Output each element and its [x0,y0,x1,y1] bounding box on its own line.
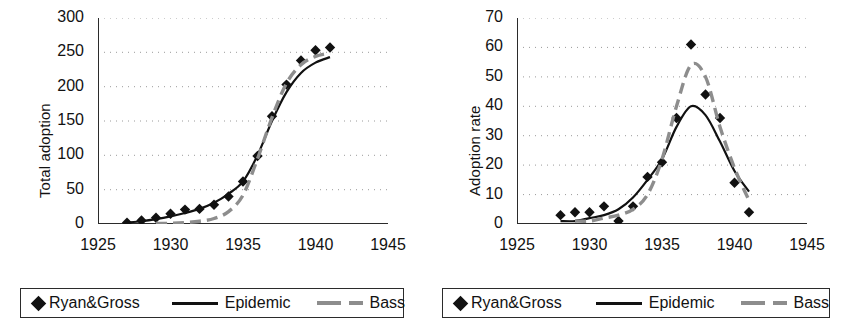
y-tick-label: 70 [459,8,503,26]
legend-label-bass: Bass [794,294,830,312]
y-tick-label: 50 [40,180,84,198]
legend-label-bass: Bass [370,294,406,312]
y-tick-label: 0 [459,214,503,232]
legend-entry-bass: Bass [741,294,830,312]
plot-area-total-adoption [98,18,388,224]
diamond-marker-icon [453,295,469,311]
legend-entry-ryan-gross: Ryan&Gross [453,294,562,312]
y-tick-label: 300 [40,8,84,26]
dashed-line-swatch-icon [317,301,363,305]
y-tick-label: 150 [40,111,84,129]
solid-line-swatch-icon [172,302,218,305]
y-tick-label: 100 [40,145,84,163]
x-tick-label: 1930 [141,236,201,254]
series-line-bass [575,63,749,221]
x-tick-label: 1925 [68,236,128,254]
legend-label-epidemic: Epidemic [225,294,291,312]
chart-canvas [98,18,388,224]
y-tick-label: 200 [40,77,84,95]
data-point-marker [555,210,565,220]
data-point-marker [599,201,609,211]
solid-line-swatch-icon [596,302,642,305]
series-line-epidemic [561,106,750,221]
x-tick-label: 1935 [213,236,273,254]
data-point-marker [700,89,710,99]
axis-lines [517,18,807,224]
legend-adoption-rate: Ryan&Gross Epidemic Bass [442,288,830,318]
data-point-marker [584,207,594,217]
legend-entry-epidemic: Epidemic [172,294,291,312]
y-tick-label: 250 [40,42,84,60]
plot-area-adoption-rate [517,18,807,224]
legend-label-epidemic: Epidemic [649,294,715,312]
figure-root: Total adoption 050100150200250300 192519… [0,0,849,334]
y-tick-label: 40 [459,96,503,114]
x-tick-label: 1940 [705,236,765,254]
y-tick-label: 30 [459,126,503,144]
data-point-marker [570,207,580,217]
legend-entry-bass: Bass [317,294,406,312]
y-tick-label: 20 [459,155,503,173]
y-tick-label: 50 [459,67,503,85]
series-line-bass [156,53,330,223]
data-point-marker [744,207,754,217]
x-tick-label: 1930 [560,236,620,254]
gridlines [517,18,807,224]
series-markers-ryan-gross [555,39,754,224]
legend-entry-ryan-gross: Ryan&Gross [31,294,140,312]
x-tick-label: 1945 [358,236,418,254]
data-point-marker [686,39,696,49]
y-axis-title-adoption-rate: Adoption rate [466,105,483,196]
y-tick-label: 10 [459,185,503,203]
chart-panel-adoption-rate: Adoption rate 010203040506070 1925193019… [424,0,848,334]
y-tick-label: 60 [459,37,503,55]
x-tick-label: 1945 [777,236,837,254]
x-tick-label: 1925 [487,236,547,254]
gridlines [98,18,388,224]
chart-panel-total-adoption: Total adoption 050100150200250300 192519… [0,0,424,334]
chart-canvas [517,18,807,224]
x-tick-label: 1935 [632,236,692,254]
legend-label-ryan-gross: Ryan&Gross [49,294,140,312]
x-tick-label: 1940 [286,236,346,254]
legend-entry-epidemic: Epidemic [596,294,715,312]
dashed-line-swatch-icon [741,301,787,305]
y-tick-label: 0 [40,214,84,232]
legend-total-adoption: Ryan&Gross Epidemic Bass [20,288,404,318]
diamond-marker-icon [31,295,47,311]
legend-label-ryan-gross: Ryan&Gross [471,294,562,312]
data-point-marker [325,42,335,52]
